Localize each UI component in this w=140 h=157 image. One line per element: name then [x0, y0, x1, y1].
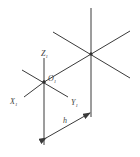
y1-label: Y1: [71, 98, 78, 108]
upper-axes-star: [44, 8, 130, 117]
axes-diagram: Z1 O1 X1 Y1 h: [0, 0, 140, 157]
origin-o1-point: [43, 81, 46, 84]
dimension-h-label: h: [63, 116, 67, 125]
upper-origin-point: [90, 53, 92, 55]
lower-axes-star: [22, 58, 68, 145]
upper-diagonal-axis-b: [44, 31, 130, 82]
z1-label: Z1: [41, 49, 48, 59]
dimension-h-arrow: [46, 113, 90, 138]
x1-axis: [24, 82, 44, 97]
x1-label: X1: [9, 97, 17, 107]
